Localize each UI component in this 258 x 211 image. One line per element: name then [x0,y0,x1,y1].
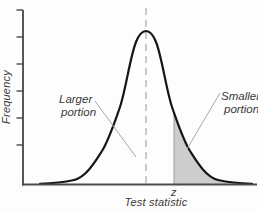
distribution-chart-canvas: Frequency Test statistic z Larger portio… [0,0,258,211]
y-axis-label: Frequency [0,69,12,124]
normal-distribution-figure: Frequency Test statistic z Larger portio… [0,0,258,211]
shaded-tail-region [174,113,248,185]
smaller-portion-line2: portion [223,103,258,115]
x-axis-label: Test statistic [125,196,188,208]
smaller-portion-line1: Smaller [221,90,258,102]
leader-line-smaller [187,93,220,149]
larger-portion-line2: portion [60,106,96,118]
larger-portion-line1: Larger [59,93,93,105]
z-label: z [170,186,177,198]
larger-portion-label: Larger portion [59,93,96,118]
y-axis-ticks [17,10,24,145]
leader-line-larger [95,101,136,157]
smaller-portion-label: Smaller portion [221,90,258,115]
